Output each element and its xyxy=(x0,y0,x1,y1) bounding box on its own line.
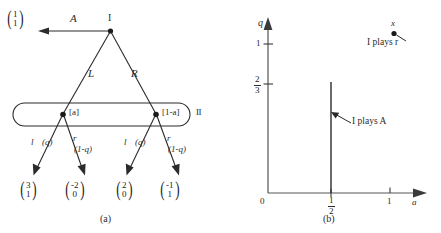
label-prob-q-left: (q) xyxy=(42,138,53,147)
label-prob-1-minus-q-right: (1-q) xyxy=(168,145,186,154)
label-point-x: x xyxy=(391,19,395,28)
branch-A-arrow xyxy=(38,27,109,34)
label-root-player-I: I xyxy=(108,13,111,23)
caption-panel-b: (b) xyxy=(323,214,335,224)
label-action-L: L xyxy=(88,68,94,79)
label-y-axis-q: q xyxy=(258,18,263,28)
figure-container: ( 1 1 ) A I L R [a] [1-a] II l (q) r (1-… xyxy=(0,0,441,233)
point-x xyxy=(391,31,396,36)
y-tick-two-thirds-numerator: 2 xyxy=(254,75,261,84)
paren-open: ( xyxy=(116,181,120,198)
label-branch-r-left: r xyxy=(73,134,77,143)
x-tick-label-1: 1 xyxy=(387,197,392,206)
label-node-1-minus-a: [1-a] xyxy=(162,108,180,117)
root-node-I xyxy=(108,28,113,33)
paren-open: ( xyxy=(160,181,164,198)
paren-open: ( xyxy=(65,181,69,198)
label-x-axis-a: a xyxy=(412,198,417,207)
caption-panel-a: (a) xyxy=(100,214,111,224)
paren-open: ( xyxy=(7,10,11,27)
payoff-4-bottom: 1 xyxy=(168,190,173,199)
label-node-a: [a] xyxy=(69,108,79,117)
y-tick-two-thirds-denominator: 3 xyxy=(254,86,261,95)
node-1-minus-a xyxy=(153,112,159,118)
paren-close: ) xyxy=(175,181,179,198)
y-tick-label-1: 1 xyxy=(256,39,261,48)
annotation-A-leader xyxy=(331,112,351,123)
paren-close: ) xyxy=(128,181,132,198)
payoff-vector-A: ( 1 1 ) xyxy=(6,10,25,27)
label-player-II: II xyxy=(196,108,201,117)
payoff-vector-4: ( -1 1 ) xyxy=(159,181,181,198)
branch-L xyxy=(63,32,110,114)
payoff-vector-2: ( -2 0 ) xyxy=(64,181,86,198)
label-branch-l-left: l xyxy=(31,138,34,147)
payoff-vector-1: ( 3 1 ) xyxy=(19,181,38,198)
y-tick-label-two-thirds: 2 3 xyxy=(254,75,261,95)
payoff-vector-3: ( 2 0 ) xyxy=(115,181,134,198)
x-tick-label-0: 0 xyxy=(260,197,265,206)
label-branch-r-right: r xyxy=(167,134,171,143)
annotation-I-plays-r: I plays r xyxy=(367,38,398,48)
label-branch-l-right: l xyxy=(124,138,127,147)
payoff-1-bottom: 1 xyxy=(26,190,31,199)
label-action-R: R xyxy=(131,68,138,79)
payoff-3-bottom: 0 xyxy=(122,190,127,199)
payoff-A-bottom: 1 xyxy=(13,19,18,28)
paren-close: ) xyxy=(32,181,36,198)
y-axis xyxy=(264,17,273,193)
annotation-I-plays-A: I plays A xyxy=(352,117,386,127)
x-tick-half-numerator: 1 xyxy=(328,196,335,205)
paren-close: ) xyxy=(19,10,23,27)
paren-close: ) xyxy=(80,181,84,198)
label-prob-1-minus-q-left: (1-q) xyxy=(74,145,92,154)
paren-open: ( xyxy=(20,181,24,198)
x-axis xyxy=(268,189,427,198)
payoff-2-bottom: 0 xyxy=(73,190,78,199)
label-action-A: A xyxy=(70,13,77,24)
label-prob-q-right-2: (q) xyxy=(135,138,146,147)
node-a xyxy=(60,112,66,118)
